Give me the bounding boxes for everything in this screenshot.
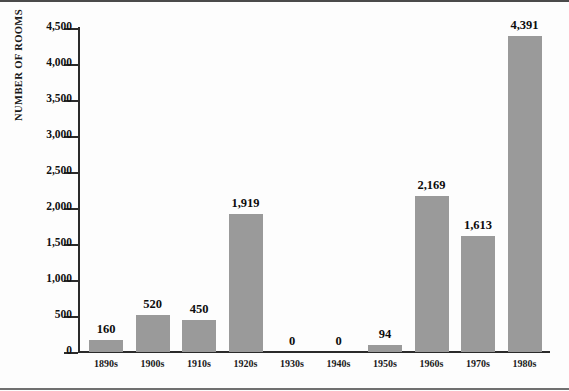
bar-slot: 4,391 — [508, 28, 542, 352]
bar-value-label: 94 — [379, 327, 392, 342]
x-axis-category-label: 1970s — [452, 358, 504, 369]
bar-slot: 450 — [182, 28, 216, 352]
x-axis-category-label: 1980s — [499, 358, 551, 369]
bar-value-label: 4,391 — [510, 18, 538, 33]
bar-value-label: 1,613 — [464, 218, 492, 233]
y-tick-label: 0 — [66, 344, 72, 356]
x-axis-category-label: 1910s — [173, 358, 225, 369]
y-axis-title: NUMBER OF ROOMS — [13, 0, 24, 145]
bar — [182, 320, 216, 352]
bar-value-label: 0 — [289, 334, 295, 349]
bar — [136, 315, 170, 352]
bar-slot: 1,613 — [461, 28, 495, 352]
x-axis-category-label: 1960s — [406, 358, 458, 369]
x-axis-category-label: 1920s — [220, 358, 272, 369]
bar-value-label: 450 — [190, 302, 209, 317]
y-tick-label: 2,000 — [46, 200, 72, 212]
bar-chart: NUMBER OF ROOMS 05001,0001,5002,0002,500… — [0, 0, 569, 391]
y-tick-label: 2,500 — [46, 164, 72, 176]
x-axis-category-label: 1950s — [359, 358, 411, 369]
y-tick-label: 1,500 — [46, 236, 72, 248]
y-tick-label: 4,000 — [46, 56, 72, 68]
y-tick-label: 4,500 — [46, 20, 72, 32]
y-tick-label: 3,000 — [46, 128, 72, 140]
bar-value-label: 2,169 — [417, 178, 445, 193]
bar — [415, 196, 449, 352]
bar-slot: 2,169 — [415, 28, 449, 352]
bar-slot: 520 — [136, 28, 170, 352]
bar — [229, 214, 263, 352]
bar — [508, 36, 542, 352]
bottom-border-rule — [0, 388, 569, 390]
bar — [89, 340, 123, 352]
bar-slot: 0 — [322, 28, 356, 352]
bar — [368, 345, 402, 352]
y-tick-label: 3,500 — [46, 92, 72, 104]
bar-value-label: 520 — [143, 297, 162, 312]
x-axis-category-label: 1930s — [266, 358, 318, 369]
bar-value-label: 0 — [335, 334, 341, 349]
bar-slot: 0 — [275, 28, 309, 352]
x-axis-category-label: 1890s — [80, 358, 132, 369]
bar — [461, 236, 495, 352]
y-tick-label: 1,000 — [46, 272, 72, 284]
x-axis-category-label: 1940s — [313, 358, 365, 369]
y-tick-label: 500 — [55, 308, 72, 320]
top-border-rule — [0, 0, 569, 2]
bar-value-label: 1,919 — [231, 196, 259, 211]
x-axis-category-label: 1900s — [127, 358, 179, 369]
bar-slot: 160 — [89, 28, 123, 352]
plot-area: 05001,0001,5002,0002,5003,0003,5004,0004… — [78, 28, 548, 352]
bar-slot: 94 — [368, 28, 402, 352]
bar-value-label: 160 — [97, 322, 116, 337]
bar-slot: 1,919 — [229, 28, 263, 352]
